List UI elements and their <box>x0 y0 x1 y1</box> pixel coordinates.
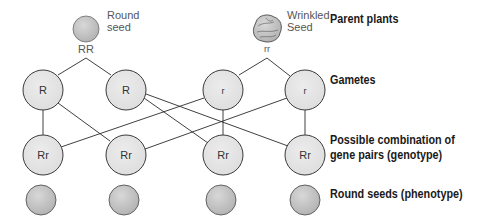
svg-text:Rr: Rr <box>217 149 229 161</box>
round-seed-label-line1: Round <box>107 9 139 21</box>
label-phenotype: Round seeds (phenotype) <box>330 187 463 202</box>
round-seed-icon <box>26 185 56 215</box>
gamete-node: R <box>23 70 63 110</box>
round-seed-icon <box>109 185 139 215</box>
genotype-node: Rr <box>106 135 146 175</box>
label-genotype-line1: Possible combination of <box>330 133 455 148</box>
gamete-node: r <box>203 70 243 110</box>
genotype-node: Rr <box>203 135 243 175</box>
parent-round-seed: Round seed RR <box>73 9 139 55</box>
svg-text:Rr: Rr <box>299 149 311 161</box>
phenotype-row <box>26 185 320 215</box>
svg-text:Rr: Rr <box>37 149 49 161</box>
round-seed-icon <box>206 185 236 215</box>
parent-wrinkled-seed: Wrinkled Seed rr <box>253 9 329 54</box>
svg-text:r: r <box>222 86 225 96</box>
wrinkled-seed-label-line2: Seed <box>287 21 313 33</box>
wrinkled-seed-label-line1: Wrinkled <box>287 9 330 21</box>
genotype-row: Rr Rr Rr Rr <box>23 135 325 175</box>
label-gametes: Gametes <box>330 73 376 88</box>
genotype-node: Rr <box>285 135 325 175</box>
svg-text:R: R <box>39 84 47 96</box>
parent-genotype-RR: RR <box>78 43 94 55</box>
wrinkled-seed-icon <box>253 15 281 42</box>
round-seed-label-line2: seed <box>107 21 131 33</box>
round-seed-icon <box>290 185 320 215</box>
gamete-node: R <box>106 70 146 110</box>
svg-text:r: r <box>304 86 307 96</box>
svg-text:R: R <box>122 84 130 96</box>
round-seed-icon <box>73 16 99 42</box>
genotype-node: Rr <box>23 135 63 175</box>
connector-lines <box>43 58 305 149</box>
label-genotype-line2: gene pairs (genotype) <box>330 148 442 163</box>
parent-genotype-rr: rr <box>264 44 270 54</box>
label-parent-plants: Parent plants <box>330 12 398 27</box>
gamete-node: r <box>285 70 325 110</box>
svg-text:Rr: Rr <box>120 149 132 161</box>
